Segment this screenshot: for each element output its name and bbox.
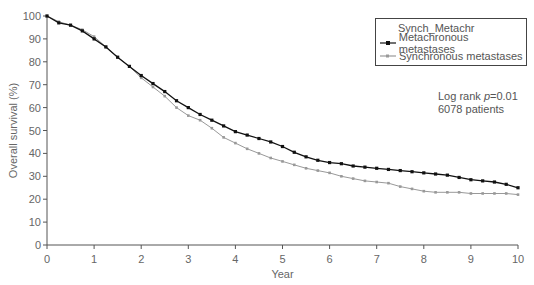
data-point [69,24,72,27]
data-point [505,183,508,186]
legend: Synch_Metachr Metachronous metastases Sy… [375,18,527,66]
data-point [128,65,131,68]
y-tick-label: 40 [29,147,41,159]
x-tick-label: 3 [185,253,191,265]
y-tick-label: 20 [29,193,41,205]
y-tick-label: 60 [29,102,41,114]
data-point [317,169,320,172]
data-point [222,136,225,139]
x-tick-label: 10 [512,253,524,265]
data-point [140,74,143,77]
patients-count: 6078 patients [438,103,518,116]
x-tick-label: 6 [327,253,333,265]
data-point [493,192,496,195]
data-point [470,192,473,195]
data-point [57,21,60,24]
data-point [340,175,343,178]
x-tick-label: 1 [91,253,97,265]
data-point [116,56,119,59]
data-point [269,140,272,143]
data-point [446,191,449,194]
data-point [458,191,461,194]
legend-item-synchronous: Synchronous metastases [380,49,523,63]
data-point [505,192,508,195]
data-point [328,161,331,164]
data-point [246,133,249,136]
data-point [258,152,261,155]
data-point [93,37,96,40]
gray-line-marker-icon [380,52,396,60]
data-point [281,160,284,163]
data-point [152,86,155,89]
data-point [422,171,425,174]
data-point [399,169,402,172]
data-point [340,162,343,165]
data-point [304,155,307,158]
data-point [293,164,296,167]
data-point [375,167,378,170]
data-point [363,166,366,169]
data-point [410,170,413,173]
data-point [316,159,319,162]
logrank-text: Log rank p=0.01 [438,90,518,103]
data-point [198,113,201,116]
legend-item-metachronous: Metachronous metastases [380,36,526,50]
x-tick-label: 2 [138,253,144,265]
x-tick-label: 0 [44,253,50,265]
data-point [210,119,213,122]
y-tick-label: 70 [29,79,41,91]
data-point [163,90,166,93]
data-point [481,192,484,195]
data-point [199,119,202,122]
x-tick-label: 4 [232,253,238,265]
data-point [387,182,390,185]
y-tick-label: 90 [29,33,41,45]
data-point [493,180,496,183]
data-point [434,172,437,175]
legend-label: Synchronous metastases [399,50,523,62]
data-point [423,190,426,193]
data-point [187,114,190,117]
y-tick-label: 50 [29,125,41,137]
data-point [187,106,190,109]
data-point [234,142,237,145]
data-point [328,172,331,175]
data-point [305,167,308,170]
data-point [364,180,367,183]
data-point [481,179,484,182]
data-point [446,174,449,177]
data-point [257,137,260,140]
x-tick-label: 9 [468,253,474,265]
data-point [434,191,437,194]
data-point [293,151,296,154]
data-point [175,99,178,102]
y-tick-label: 30 [29,170,41,182]
y-tick-label: 80 [29,56,41,68]
data-point [211,127,214,130]
data-point [163,95,166,98]
data-point [458,176,461,179]
data-point [175,106,178,109]
data-point [387,168,390,171]
data-point [352,164,355,167]
x-axis-title: Year [271,268,294,280]
y-tick-label: 100 [23,10,41,22]
data-point [469,178,472,181]
data-point [411,188,414,191]
y-tick-label: 0 [35,239,41,251]
y-tick-label: 10 [29,216,41,228]
data-point [269,157,272,160]
black-line-marker-icon [380,39,396,47]
y-axis-title: Overall survival (%) [7,83,19,178]
data-point [517,193,520,196]
x-tick-label: 7 [374,253,380,265]
data-point [375,181,378,184]
data-point [45,14,48,17]
data-point [246,148,249,151]
data-point [222,124,225,127]
data-point [81,29,84,32]
data-point [516,186,519,189]
data-point [281,145,284,148]
stats-annotation: Log rank p=0.01 6078 patients [438,90,518,116]
x-tick-label: 5 [279,253,285,265]
